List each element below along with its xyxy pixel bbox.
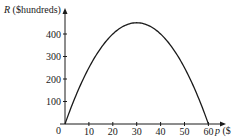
y-tick-label: 100: [46, 96, 61, 107]
x-tick-label: 20: [108, 126, 118, 137]
origin-label: 0: [56, 125, 61, 136]
x-tick-label: 50: [180, 126, 190, 137]
x-tick-label: 10: [84, 126, 94, 137]
y-axis-arrow-icon: [63, 8, 68, 14]
revenue-chart: 100200300400 102030405060 0 R ($hundreds…: [0, 0, 234, 138]
y-tick-label: 200: [46, 74, 61, 85]
x-axis-label: p ($: [214, 125, 231, 137]
x-tick-label: 60: [203, 126, 213, 137]
revenue-curve: [65, 23, 208, 124]
y-ticks: 100200300400: [46, 29, 67, 108]
y-tick-label: 300: [46, 51, 61, 62]
x-tick-label: 40: [156, 126, 166, 137]
y-axis-label: R ($hundreds): [3, 4, 61, 16]
x-tick-label: 30: [132, 126, 142, 137]
y-tick-label: 400: [46, 29, 61, 40]
